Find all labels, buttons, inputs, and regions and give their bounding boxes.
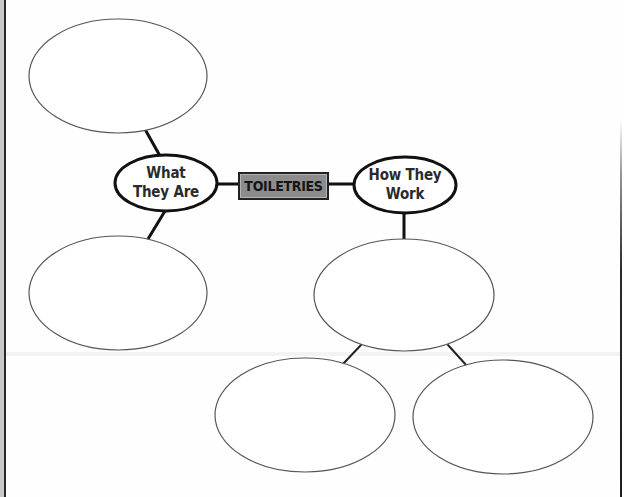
blank-ellipses: [29, 19, 593, 474]
blank-ellipse-top-left[interactable]: [29, 19, 207, 133]
node-what-they-are-line2: They Are: [118, 183, 214, 202]
blank-ellipse-bottom-left[interactable]: [29, 236, 207, 350]
node-how-they-work: How They Work: [357, 166, 453, 204]
connector-bottom-left: [148, 211, 165, 239]
blank-ellipse-bottom-center[interactable]: [215, 358, 395, 472]
concept-map-diagram: [0, 0, 624, 497]
blank-ellipse-middle-right[interactable]: [314, 239, 494, 351]
connector-top-left: [146, 131, 160, 156]
node-how-they-work-line2: Work: [357, 185, 453, 204]
node-how-they-work-line1: How They: [357, 166, 453, 185]
node-what-they-are: What They Are: [118, 164, 214, 202]
center-node-toiletries: TOILETRIES: [238, 172, 329, 200]
worksheet-page: TOILETRIES What They Are How They Work: [0, 0, 624, 497]
blank-ellipse-bottom-right[interactable]: [413, 360, 593, 474]
connector-middle-to-bottom-center: [342, 345, 361, 365]
connector-middle-to-bottom-right: [448, 345, 467, 366]
center-node-label: TOILETRIES: [244, 178, 322, 194]
node-what-they-are-line1: What: [118, 164, 214, 183]
